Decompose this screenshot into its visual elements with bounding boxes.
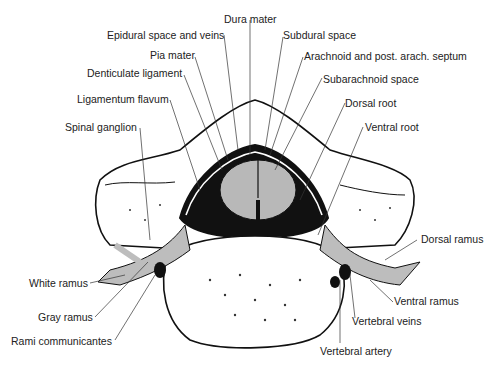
label-white-ramus: White ramus — [29, 277, 88, 289]
vertebral-body — [164, 236, 345, 348]
label-subdural-space: Subdural space — [283, 29, 356, 41]
label-rami-communicantes: Rami communicantes — [11, 335, 112, 347]
label-subarachnoid-space: Subarachnoid space — [323, 73, 419, 85]
label-epidural-space: Epidural space and veins — [107, 29, 224, 41]
label-gray-ramus: Gray ramus — [38, 311, 93, 323]
label-ligamentum-flavum: Ligamentum flavum — [77, 93, 169, 105]
label-denticulate-ligament: Denticulate ligament — [87, 67, 182, 79]
label-ventral-ramus: Ventral ramus — [394, 295, 459, 307]
label-arachnoid: Arachnoid and post. arach. septum — [304, 50, 467, 62]
label-spinal-ganglion: Spinal ganglion — [65, 121, 137, 133]
label-pia-mater: Pia mater — [150, 49, 195, 61]
label-ventral-root: Ventral root — [365, 121, 419, 133]
label-vertebral-veins: Vertebral veins — [352, 315, 421, 327]
label-dorsal-ramus: Dorsal ramus — [421, 233, 483, 245]
label-dura-mater: Dura mater — [224, 13, 277, 25]
label-dorsal-root: Dorsal root — [345, 97, 396, 109]
label-vertebral-artery: Vertebral artery — [320, 345, 392, 357]
